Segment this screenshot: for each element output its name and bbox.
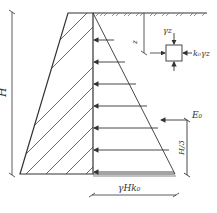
base-pressure-dimension xyxy=(89,193,179,197)
label-horizontal-stress: k₀γz xyxy=(193,49,211,58)
pressure-distribution xyxy=(93,13,176,176)
label-height: H xyxy=(0,87,9,98)
label-resultant: E₀ xyxy=(191,110,203,120)
depth-dimension xyxy=(141,13,165,55)
soil-element xyxy=(166,33,192,71)
label-vertical-stress: γz xyxy=(163,26,173,35)
height-dimension xyxy=(9,10,15,177)
label-base-pressure: γHk₀ xyxy=(118,183,141,193)
ground-surface xyxy=(93,13,207,16)
label-depth: z xyxy=(131,40,139,45)
label-resultant-height: H/3 xyxy=(177,140,186,156)
earth-pressure-diagram: H z γz k₀γz E₀ H/3 γHk₀ xyxy=(0,0,217,213)
